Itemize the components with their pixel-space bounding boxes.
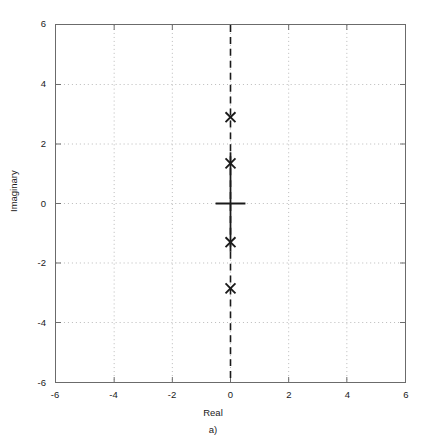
x-tick-label: -2 bbox=[168, 390, 176, 400]
data-layer bbox=[56, 25, 405, 382]
y-tick-label: 4 bbox=[26, 79, 46, 89]
y-tick-label: 0 bbox=[26, 199, 46, 209]
pole-zero-plot-figure: 6 4 2 0 -2 -4 -6 -6 -4 -2 0 2 4 6 Imagin… bbox=[0, 0, 426, 446]
x-tick-label: 0 bbox=[228, 390, 233, 400]
plot-area bbox=[55, 24, 406, 383]
y-tick-label: 2 bbox=[26, 139, 46, 149]
x-axis-title: Real bbox=[0, 407, 426, 418]
x-tick-label: -4 bbox=[109, 390, 117, 400]
y-tick-label: -4 bbox=[26, 318, 46, 328]
y-tick-label: 6 bbox=[26, 19, 46, 29]
x-tick-label: 4 bbox=[345, 390, 350, 400]
x-tick-label: -6 bbox=[51, 390, 59, 400]
x-tick-label: 2 bbox=[286, 390, 291, 400]
y-tick-label: -2 bbox=[26, 259, 46, 269]
x-tick-label: 6 bbox=[403, 390, 408, 400]
figure-caption: a) bbox=[0, 424, 426, 435]
y-axis-title: Imaginary bbox=[8, 170, 19, 212]
y-tick-label: -6 bbox=[26, 378, 46, 388]
